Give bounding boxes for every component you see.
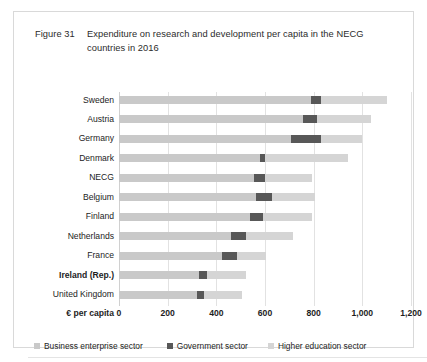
category-axis-labels: SwedenAustriaGermanyDenmarkNECGBelgiumFi…	[24, 92, 114, 306]
figure-title: Figure 31Expenditure on research and dev…	[35, 27, 385, 55]
bar-row	[119, 228, 411, 247]
category-label: Denmark	[24, 153, 114, 163]
stacked-bar	[119, 193, 315, 201]
bar-segment	[119, 213, 250, 221]
bar-row	[119, 131, 411, 150]
category-label: Finland	[24, 211, 114, 221]
legend-item: Business enterprise sector	[34, 341, 143, 351]
bar-segment	[246, 232, 293, 240]
stacked-bar	[119, 232, 293, 240]
bar-segment	[317, 115, 371, 123]
bar-segment	[119, 271, 199, 279]
category-label: Austria	[24, 114, 114, 124]
category-label: NECG	[24, 172, 114, 182]
bar-segment	[119, 154, 260, 162]
bar-row	[119, 267, 411, 286]
stacked-bar	[119, 96, 387, 104]
bar-row	[119, 189, 411, 208]
figure-card: Figure 31Expenditure on research and dev…	[13, 11, 414, 348]
x-axis-ticks: 02004006008001,0001,200	[119, 308, 411, 322]
category-label: Ireland (Rep.)	[24, 270, 114, 280]
bar-segment	[311, 96, 321, 104]
bar-row	[119, 209, 411, 228]
bar-row	[119, 150, 411, 169]
bar-segment	[119, 291, 197, 299]
figure-caption: Expenditure on research and development …	[87, 27, 375, 55]
stacked-bar	[119, 154, 348, 162]
category-label: Germany	[24, 133, 114, 143]
bar-segment	[231, 232, 246, 240]
stacked-bar	[119, 213, 312, 221]
x-tick-label: 400	[209, 308, 223, 318]
bar-segment	[321, 135, 362, 143]
category-label: France	[24, 250, 114, 260]
bar-row	[119, 248, 411, 267]
bar-segment	[263, 213, 313, 221]
bar-segment	[119, 193, 256, 201]
stacked-bar	[119, 291, 242, 299]
x-tick-label: 200	[160, 308, 174, 318]
stacked-bar	[119, 135, 362, 143]
legend-label: Higher education sector	[278, 341, 366, 351]
stacked-bar	[119, 115, 371, 123]
bar-segment	[303, 115, 318, 123]
legend-label: Business enterprise sector	[44, 341, 143, 351]
x-tick-label: 1,000	[352, 308, 374, 318]
chart-legend: Business enterprise sectorGovernment sec…	[34, 339, 403, 353]
legend-swatch	[34, 343, 40, 349]
legend-item: Government sector	[167, 341, 248, 351]
legend-label: Government sector	[177, 341, 248, 351]
chart-plot-area	[119, 92, 411, 306]
legend-divider	[28, 357, 427, 358]
stacked-bar	[119, 271, 246, 279]
bar-segment	[119, 252, 222, 260]
bar-segment	[119, 174, 254, 182]
bar-segment	[222, 252, 237, 260]
bar-segment	[265, 154, 348, 162]
bar-segment	[119, 135, 291, 143]
legend-swatch	[268, 343, 274, 349]
bar-row	[119, 92, 411, 111]
x-tick-label: 600	[258, 308, 272, 318]
bar-segment	[254, 174, 265, 182]
bar-segment	[199, 271, 206, 279]
bar-segment	[256, 193, 272, 201]
bar-segment	[237, 252, 266, 260]
bar-segment	[291, 135, 321, 143]
bar-row	[119, 111, 411, 130]
bar-row	[119, 170, 411, 189]
bar-segment	[204, 291, 242, 299]
bar-segment	[119, 96, 311, 104]
x-tick-label: 0	[117, 308, 122, 318]
category-label: United Kingdom	[24, 289, 114, 299]
category-label: Belgium	[24, 192, 114, 202]
stacked-bar	[119, 174, 312, 182]
bar-segment	[119, 232, 231, 240]
legend-swatch	[167, 343, 173, 349]
bar-segment	[197, 291, 204, 299]
bar-segment	[321, 96, 387, 104]
category-label: Sweden	[24, 95, 114, 105]
legend-item: Higher education sector	[268, 341, 366, 351]
bar-segment	[119, 115, 303, 123]
category-label: Netherlands	[24, 231, 114, 241]
figure-number: Figure 31	[35, 27, 87, 41]
bar-row	[119, 287, 411, 306]
axis-caption: € per capita	[32, 308, 114, 318]
stacked-bar	[119, 252, 266, 260]
bar-segment	[272, 193, 315, 201]
bar-rows	[119, 92, 411, 306]
bar-segment	[250, 213, 262, 221]
bar-segment	[207, 271, 246, 279]
x-tick-label: 1,200	[400, 308, 422, 318]
x-tick-label: 800	[306, 308, 320, 318]
bar-segment	[265, 174, 312, 182]
gridline-1200	[411, 92, 412, 306]
